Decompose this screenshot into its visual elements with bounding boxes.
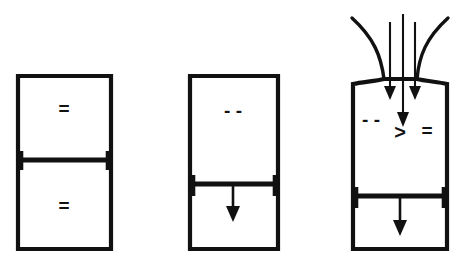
inflow-arrow-left (384, 22, 396, 100)
upper-chamber-dash-symbols: - - (224, 100, 242, 121)
diagram-figure: = = - - (0, 0, 466, 267)
funnel-curve-right (417, 18, 448, 79)
upper-chamber-equals-symbol: = (421, 120, 432, 141)
upper-chamber-greater-than-symbol: > (394, 121, 406, 143)
motion-arrow-head (226, 206, 240, 222)
lower-chamber-motion-arrow (226, 186, 240, 222)
upper-chamber-equals-symbol: = (58, 98, 69, 119)
panel-inflow: - - > = (352, 14, 448, 249)
upper-chamber-dash-symbols: - - (362, 109, 380, 130)
motion-arrow-head (393, 220, 407, 236)
inflow-arrow-right-head (409, 86, 421, 100)
lower-chamber-equals-symbol: = (58, 195, 69, 216)
inflow-arrow-center (397, 14, 409, 127)
panel-expansion: - - (190, 76, 278, 249)
diagram-canvas: = = - - (0, 0, 466, 267)
panel-equilibrium: = = (18, 76, 111, 249)
inflow-arrow-left-head (384, 86, 396, 100)
lower-chamber-motion-arrow (393, 198, 407, 236)
funnel-curve-left (352, 18, 384, 79)
